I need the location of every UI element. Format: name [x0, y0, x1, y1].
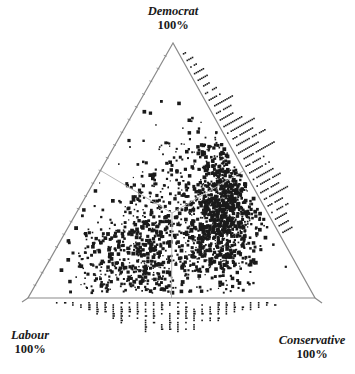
ternary-plot [0, 0, 355, 374]
axis-max: 100% [2, 342, 58, 356]
vertex-label-democrat: Democrat 100% [133, 4, 213, 33]
axis-max: 100% [270, 347, 354, 361]
axis-name: Labour [2, 328, 58, 342]
vertex-label-labour: Labour 100% [2, 328, 58, 357]
axis-name: Conservative [270, 333, 354, 347]
axis-name: Democrat [133, 4, 213, 18]
vertex-label-conservative: Conservative 100% [270, 333, 354, 362]
axis-max: 100% [133, 18, 213, 32]
marginal-rugs [56, 52, 293, 332]
scatter-points [60, 100, 287, 295]
